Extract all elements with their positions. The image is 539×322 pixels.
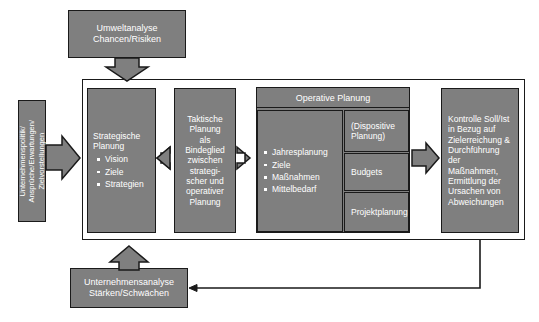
- arrow-right-policy-to-strategic: [46, 136, 80, 179]
- arrow-up-unternehmensanalyse: [110, 246, 148, 270]
- arrow-bidirectional-tactical-operative: [237, 147, 250, 169]
- feedback-loop-line: [193, 240, 480, 288]
- connector-layer: [0, 0, 539, 322]
- arrow-down-umweltanalyse: [106, 58, 148, 81]
- arrow-left-tactical-to-strategic: [157, 147, 170, 169]
- diagram-canvas: Umweltanalyse Chancen/Risiken Unternehme…: [0, 0, 539, 322]
- arrow-right-operative-to-kontrolle: [412, 143, 439, 173]
- feedback-loop-arrowhead: [189, 285, 197, 292]
